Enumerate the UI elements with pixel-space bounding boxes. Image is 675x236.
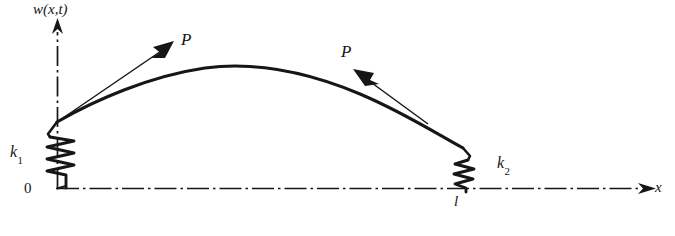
right-force-label: P xyxy=(341,43,351,60)
left-spring-label: k1 xyxy=(10,144,23,163)
left-force-arrow-shaft xyxy=(63,47,167,118)
left-spring xyxy=(47,122,74,189)
left-spring-label-base: k xyxy=(10,143,17,160)
y-axis-label: w(x,t) xyxy=(33,2,68,17)
deflected-beam-curve xyxy=(57,66,463,148)
right-spring-coils xyxy=(454,160,474,192)
x-axis-arrowhead xyxy=(638,183,656,194)
right-spring-label: k2 xyxy=(497,155,510,174)
x-axis-label: x xyxy=(655,180,662,195)
left-spring-top-lead xyxy=(48,122,57,137)
right-force-arrowhead xyxy=(353,69,379,86)
y-axis-arrowhead xyxy=(52,18,63,34)
origin-label: 0 xyxy=(24,181,32,196)
beam-length-label: l xyxy=(454,194,458,209)
right-spring xyxy=(454,148,474,192)
left-spring-coils xyxy=(47,137,74,188)
beam-diagram-figure: w(x,t) P P k1 k2 0 l x xyxy=(0,0,675,236)
right-spring-top-lead xyxy=(463,148,470,160)
right-spring-label-base: k xyxy=(497,154,504,171)
left-spring-label-subscript: 1 xyxy=(18,154,23,166)
diagram-canvas xyxy=(0,0,675,236)
left-force-label: P xyxy=(181,31,191,48)
x-axis xyxy=(57,183,656,194)
right-spring-label-subscript: 2 xyxy=(505,165,510,177)
